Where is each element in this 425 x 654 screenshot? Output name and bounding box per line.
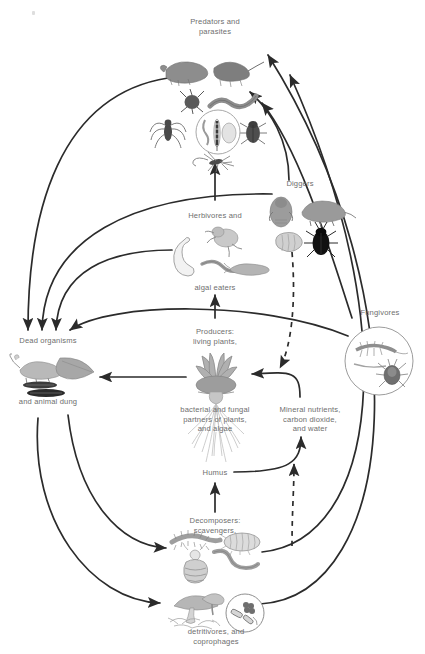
label-detritivores: detritivores, and coprophages bbox=[166, 627, 266, 646]
label-partners: bacterial and fungal partners of plants,… bbox=[162, 405, 268, 434]
label-herbivores: Herbivores and bbox=[165, 211, 265, 221]
edge-decomposers-minerals-dashed bbox=[292, 464, 294, 546]
edge-dead-detritivores bbox=[37, 418, 160, 603]
label-diggers: Diggers bbox=[270, 179, 330, 189]
soil-food-web-diagram: Predators and parasites Diggers Herbivor… bbox=[0, 0, 425, 654]
label-decomposers: Decomposers: scavengers, bbox=[172, 516, 258, 535]
label-producers: Producers: living plants, bbox=[175, 327, 255, 346]
label-fungivores: Fungivores bbox=[345, 308, 415, 318]
art-diggers-cluster bbox=[264, 192, 356, 262]
art-fungivores-circle bbox=[342, 324, 416, 398]
art-decomposers-cluster bbox=[166, 528, 270, 590]
edge-minerals-producers bbox=[252, 373, 300, 397]
edge-dead-decomposers bbox=[68, 415, 166, 548]
art-herbivores-cluster bbox=[168, 224, 272, 286]
label-predators: Predators and parasites bbox=[165, 17, 265, 36]
art-dead-organisms bbox=[8, 352, 100, 400]
label-dead-organisms: Dead organisms bbox=[2, 336, 94, 346]
edge-herbivores-dead bbox=[56, 250, 172, 330]
label-animal-dung: and animal dung bbox=[2, 397, 94, 407]
label-humus: Humus bbox=[190, 468, 240, 478]
art-predators-cluster bbox=[148, 48, 288, 168]
edge-diggers-producers-dashed bbox=[280, 252, 294, 368]
label-minerals: Mineral nutrients, carbon dioxide, and w… bbox=[264, 405, 356, 434]
label-algal-eaters: algal eaters bbox=[175, 283, 255, 293]
